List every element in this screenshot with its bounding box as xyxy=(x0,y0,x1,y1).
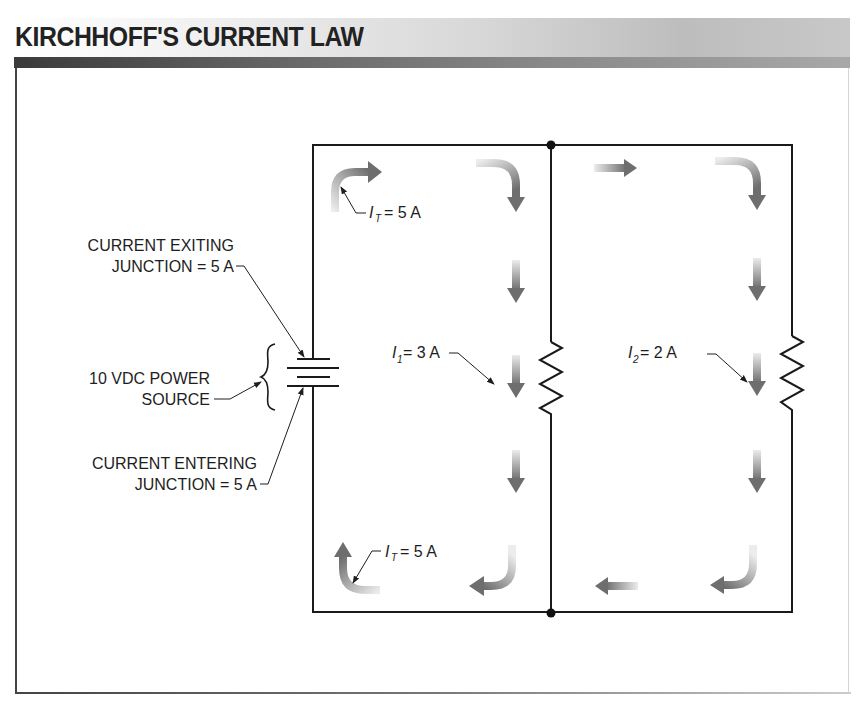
current-arrow-top-right-straight xyxy=(594,159,637,177)
battery-symbol xyxy=(287,359,339,386)
junction-dot-top xyxy=(547,141,556,150)
label-power-source-2: SOURCE xyxy=(142,391,210,408)
svg-text:T: T xyxy=(375,213,382,224)
current-arrow-branch2-3 xyxy=(748,450,766,493)
current-arrow-top-left xyxy=(335,161,382,212)
label-i1: I 1 = 3 A xyxy=(392,344,440,365)
resistor-1 xyxy=(540,342,562,420)
current-arrow-branch2-1 xyxy=(748,258,766,301)
label-current-exiting-2: JUNCTION = 5 A xyxy=(112,258,235,275)
label-it-top: I T = 5 A xyxy=(369,204,421,224)
current-arrow-bottom-right xyxy=(710,545,753,594)
svg-text:= 5 A: = 5 A xyxy=(384,204,421,221)
label-power-source-1: 10 VDC POWER xyxy=(89,370,210,387)
current-arrow-bottom-straight xyxy=(595,577,638,595)
current-arrow-bottom-left xyxy=(334,542,380,590)
current-arrow-branch1-2 xyxy=(507,355,525,398)
brace-icon xyxy=(261,344,275,410)
svg-text:T: T xyxy=(391,552,398,563)
svg-text:= 2 A: = 2 A xyxy=(640,344,677,361)
svg-text:1: 1 xyxy=(397,354,403,365)
label-current-exiting-1: CURRENT EXITING xyxy=(88,237,234,254)
svg-text:I: I xyxy=(385,543,390,560)
current-arrow-top-right xyxy=(715,161,766,210)
label-i2: I 2 = 2 A xyxy=(628,344,677,365)
svg-text:= 5 A: = 5 A xyxy=(400,543,437,560)
label-current-entering-1: CURRENT ENTERING xyxy=(92,455,257,472)
current-arrow-branch1-1 xyxy=(507,260,525,303)
current-arrow-bottom-middle xyxy=(469,545,512,596)
current-arrow-branch2-2 xyxy=(748,353,766,396)
current-arrow-top-middle xyxy=(476,163,525,212)
svg-text:2: 2 xyxy=(632,354,639,365)
junction-dot-bottom xyxy=(547,609,556,618)
current-arrow-branch1-3 xyxy=(507,450,525,493)
label-it-bottom: I T = 5 A xyxy=(385,543,437,563)
svg-text:= 3 A: = 3 A xyxy=(403,344,440,361)
label-current-entering-2: JUNCTION = 5 A xyxy=(135,476,258,493)
svg-text:I: I xyxy=(369,204,374,221)
circuit-diagram: CURRENT EXITING JUNCTION = 5 A 10 VDC PO… xyxy=(0,0,862,704)
resistor-2 xyxy=(781,336,803,418)
